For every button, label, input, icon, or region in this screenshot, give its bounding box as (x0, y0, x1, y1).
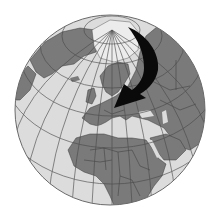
globe-svg (0, 0, 220, 224)
globe-map (0, 0, 220, 224)
madagascar (168, 186, 174, 200)
